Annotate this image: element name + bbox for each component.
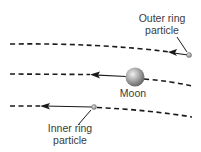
outer-label-line2: particle (145, 24, 179, 36)
moon-label: Moon (120, 87, 146, 99)
inner-label-line1: Inner ring (48, 122, 93, 134)
inner-velocity-line (44, 106, 92, 107)
inner-orbit (10, 103, 192, 125)
outer-ring-particle (187, 53, 192, 58)
outer-orbit (10, 37, 192, 58)
inner-ring-particle (92, 105, 97, 110)
ring-particle-diagram: Outer ring particle Moon Inner ring part… (0, 0, 201, 152)
inner-label-line2: particle (53, 134, 87, 146)
outer-arrow-icon (168, 49, 177, 56)
moon (126, 68, 145, 87)
outer-label-line1: Outer ring (139, 12, 186, 24)
outer-leader-line (177, 37, 187, 52)
moon-orbit (10, 68, 192, 87)
